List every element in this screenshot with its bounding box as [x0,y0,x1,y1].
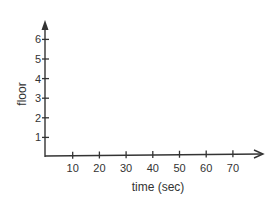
y-tick-label: 3 [35,92,41,104]
y-axis-arrow-icon [42,20,49,30]
y-tick-label: 1 [35,131,41,143]
x-tick-label: 20 [93,162,105,174]
y-axis-label: floor [15,82,29,105]
x-tick-label: 70 [227,162,239,174]
axes [42,20,264,158]
y-tick-label: 5 [35,53,41,65]
x-tick-label: 50 [173,162,185,174]
x-tick-label: 40 [147,162,159,174]
y-tick-label: 2 [35,112,41,124]
x-axis [45,154,262,156]
x-tick-label: 10 [67,162,79,174]
floor-vs-time-chart: 123456 10203040506070 floor time (sec) [0,0,278,203]
y-tick-label: 4 [35,73,41,85]
y-tick-label: 6 [35,33,41,45]
y-ticks: 123456 [35,33,49,143]
x-axis-label: time (sec) [132,180,185,194]
x-tick-label: 30 [120,162,132,174]
x-tick-label: 60 [200,162,212,174]
